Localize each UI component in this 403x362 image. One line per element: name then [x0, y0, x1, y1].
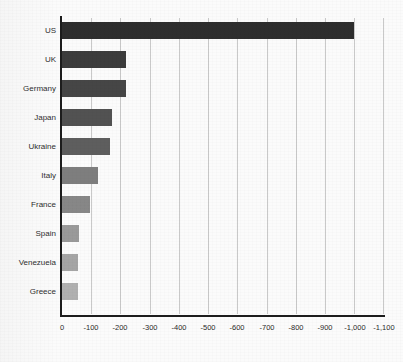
bar-japan	[62, 109, 112, 126]
category-label-us: US	[0, 22, 56, 39]
category-label-spain: Spain	[0, 225, 56, 242]
xtick-label-700: -700	[259, 323, 274, 332]
category-label-text: Venezuela	[19, 258, 56, 267]
category-label-uk: UK	[0, 51, 56, 68]
xtick-label-900: -900	[317, 323, 332, 332]
category-label-text: Spain	[36, 229, 56, 238]
category-label-text: Greece	[30, 287, 56, 296]
bar-venezuela	[62, 254, 78, 271]
x-axis-spine	[60, 315, 385, 317]
category-label-ukraine: Ukraine	[0, 138, 56, 155]
category-label-japan: Japan	[0, 109, 56, 126]
category-label-text: Germany	[23, 84, 56, 93]
xtick-label-1000: -1,000	[344, 323, 365, 332]
category-label-text: Ukraine	[28, 142, 56, 151]
xtick-label-1100: -1,100	[373, 323, 394, 332]
bar-france	[62, 196, 90, 213]
bar-germany	[62, 80, 126, 97]
category-label-text: Italy	[41, 171, 56, 180]
category-label-germany: Germany	[0, 80, 56, 97]
category-label-france: France	[0, 196, 56, 213]
gridline-1100	[383, 18, 384, 314]
xtick-label-800: -800	[288, 323, 303, 332]
category-label-text: US	[45, 26, 56, 35]
y-axis-spine	[60, 16, 62, 316]
bar-spain	[62, 225, 79, 242]
category-label-text: France	[31, 200, 56, 209]
bar-uk	[62, 51, 126, 68]
bar-chart: US UK Germany Japan Ukraine Italy France…	[0, 0, 403, 362]
xtick-label-200: -200	[112, 323, 127, 332]
xtick-label-400: -400	[171, 323, 186, 332]
category-label-text: Japan	[34, 113, 56, 122]
xtick-label-0: 0	[60, 323, 64, 332]
xtick-label-100: -100	[83, 323, 98, 332]
xtick-label-600: -600	[229, 323, 244, 332]
bar-layer	[62, 18, 383, 314]
category-label-text: UK	[45, 55, 56, 64]
bar-us	[62, 22, 354, 39]
bar-ukraine	[62, 138, 110, 155]
category-label-greece: Greece	[0, 283, 56, 300]
category-label-venezuela: Venezuela	[0, 254, 56, 271]
bar-greece	[62, 283, 78, 300]
xtick-label-300: -300	[142, 323, 157, 332]
xtick-label-500: -500	[200, 323, 215, 332]
bar-italy	[62, 167, 98, 184]
category-label-italy: Italy	[0, 167, 56, 184]
